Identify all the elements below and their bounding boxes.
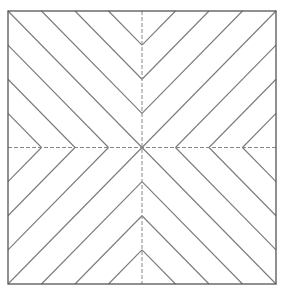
hatch-line-top-right bbox=[142, 11, 243, 113]
hatch-line-bottom-right bbox=[142, 148, 276, 285]
hatch-line-top-right bbox=[209, 79, 276, 147]
hatch-line-bottom-right bbox=[142, 182, 243, 284]
hatch-line-top-right bbox=[142, 11, 276, 148]
hatch-line-bottom-right bbox=[142, 250, 176, 284]
hatch-line-top-left bbox=[8, 79, 75, 147]
hatch-line-bottom-right bbox=[176, 148, 277, 250]
hatch-line-bottom-right bbox=[142, 216, 209, 284]
hatch-line-top-left bbox=[109, 11, 143, 45]
hatch-line-bottom-left bbox=[42, 182, 143, 284]
hatch-line-top-right bbox=[142, 11, 209, 79]
hatch-line-bottom-right bbox=[209, 148, 276, 216]
hatch-line-top-left bbox=[8, 11, 142, 148]
hatch-line-bottom-left bbox=[8, 148, 109, 250]
hatch-line-bottom-left bbox=[109, 250, 143, 284]
hatch-line-top-left bbox=[8, 45, 109, 147]
hatch-line-top-left bbox=[42, 11, 143, 113]
hatch-line-bottom-right bbox=[243, 148, 277, 182]
hatch-line-top-right bbox=[176, 45, 277, 147]
hatch-line-top-right bbox=[142, 11, 176, 45]
chevron-pattern-diagram bbox=[0, 0, 281, 293]
hatch-line-top-left bbox=[75, 11, 142, 79]
hatch-line-bottom-left bbox=[8, 148, 75, 216]
hatch-line-bottom-left bbox=[8, 148, 142, 285]
hatch-line-top-right bbox=[243, 113, 277, 147]
hatch-line-top-left bbox=[8, 113, 42, 147]
hatch-line-bottom-left bbox=[75, 216, 142, 284]
hatch-line-bottom-left bbox=[8, 148, 42, 182]
